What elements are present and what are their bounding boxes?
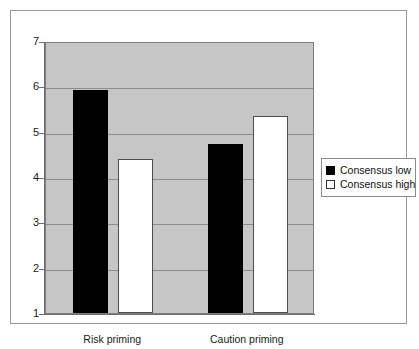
y-axis-tick-label: 3	[11, 217, 39, 228]
x-axis-category-label: Caution priming	[180, 333, 315, 345]
legend-item-label: Consensus low	[340, 165, 411, 176]
y-axis-tick-mark	[39, 133, 44, 134]
legend-swatch-outlined-square-icon	[326, 180, 335, 189]
y-axis-tick-mark	[39, 178, 44, 179]
y-axis-tick-mark	[39, 314, 44, 315]
chart-legend: Consensus lowConsensus high	[321, 158, 416, 197]
bar	[73, 90, 108, 313]
y-axis-tick-mark	[39, 87, 44, 88]
legend-item: Consensus low	[326, 164, 410, 177]
chart-frame: 1234567 Risk primingCaution priming Cons…	[10, 10, 407, 324]
y-axis-tick-label: 1	[11, 308, 39, 319]
y-tick-text: 3	[15, 217, 39, 228]
legend-item-label: Consensus high	[340, 179, 415, 190]
y-tick-text: 7	[15, 36, 39, 47]
y-axis-line	[44, 42, 45, 315]
plot-area	[45, 42, 314, 314]
x-axis-category-label: Risk priming	[45, 333, 180, 345]
x-axis-line	[45, 314, 315, 315]
bar	[208, 144, 243, 313]
bar	[118, 159, 153, 313]
legend-swatch-filled-square-icon	[326, 166, 335, 175]
y-axis-tick-label: 4	[11, 172, 39, 183]
y-tick-text: 6	[15, 81, 39, 92]
y-axis-tick-label: 5	[11, 127, 39, 138]
y-axis-tick-mark	[39, 223, 44, 224]
y-axis-tick-label: 7	[11, 36, 39, 47]
y-axis-tick-mark	[39, 269, 44, 270]
y-tick-text: 1	[15, 308, 39, 319]
bar	[253, 116, 288, 313]
y-tick-text: 4	[15, 172, 39, 183]
y-axis-tick-label: 6	[11, 81, 39, 92]
y-tick-text: 2	[15, 263, 39, 274]
y-axis-tick-mark	[39, 42, 44, 43]
plot-inner	[46, 43, 313, 313]
y-axis-tick-label: 2	[11, 263, 39, 274]
y-tick-text: 5	[15, 127, 39, 138]
legend-item: Consensus high	[326, 178, 410, 191]
gridline-6	[46, 88, 313, 89]
